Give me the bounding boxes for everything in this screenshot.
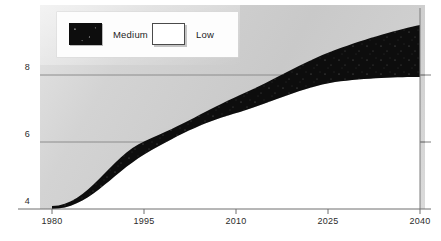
legend-entry-low[interactable]: Low (152, 23, 214, 45)
legend: Medium Low (57, 12, 238, 57)
legend-label-medium: Medium (113, 29, 148, 40)
area-series-low (52, 77, 420, 209)
legend-swatch-low-icon (152, 23, 185, 45)
x-axis-label-1995: 1995 (120, 216, 168, 226)
legend-entry-medium[interactable]: Medium (69, 23, 148, 45)
legend-label-low: Low (196, 29, 214, 40)
x-axis-label-2025: 2025 (304, 216, 352, 226)
y-axis-label-8: 8 (8, 62, 30, 72)
y-axis-label-4: 4 (8, 196, 30, 206)
y-axis-label-6: 6 (8, 129, 30, 139)
legend-swatch-medium-icon (69, 23, 102, 45)
x-axis-label-2040: 2040 (396, 216, 441, 226)
stacked-area-chart: 8 6 4 1980 1995 2010 2025 2040 Medium Lo… (0, 0, 441, 241)
x-axis-label-2010: 2010 (212, 216, 260, 226)
x-axis-label-1980: 1980 (28, 216, 76, 226)
